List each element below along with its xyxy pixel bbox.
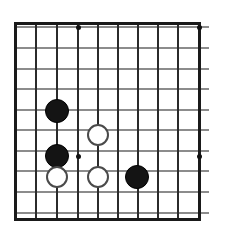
black-stone-3[interactable]	[125, 165, 149, 189]
black-stone-2[interactable]	[45, 144, 69, 168]
grid-line-vertical-2	[35, 22, 37, 218]
board-edge-top	[15, 22, 201, 25]
hoshi-c10-r7-icon	[197, 154, 202, 159]
hoshi-c4-r1-icon	[76, 25, 81, 30]
hoshi-c10-r1-icon	[197, 25, 202, 30]
board-edge-bottom	[15, 218, 201, 221]
white-stone-2[interactable]	[46, 166, 68, 188]
grid-line-vertical-5	[97, 22, 99, 218]
black-stone-1[interactable]	[45, 99, 69, 123]
go-diagram-root	[0, 0, 226, 233]
grid-line-horizontal-9	[15, 191, 209, 193]
grid-line-horizontal-3	[15, 68, 209, 70]
grid-line-vertical-6	[117, 22, 119, 218]
board-edge-right	[198, 22, 201, 221]
white-stone-1[interactable]	[87, 124, 109, 146]
white-stone-3[interactable]	[87, 166, 109, 188]
grid-line-horizontal-6	[15, 129, 209, 131]
grid-line-horizontal-10	[15, 212, 209, 214]
hoshi-c4-r7-icon	[76, 154, 81, 159]
grid-line-horizontal-1	[15, 26, 209, 28]
grid-line-vertical-4	[77, 22, 79, 218]
grid-line-horizontal-2	[15, 47, 209, 49]
grid-line-horizontal-8	[15, 170, 209, 172]
board-edge-left	[14, 22, 17, 221]
grid-line-vertical-9	[177, 22, 179, 218]
grid-line-horizontal-7	[15, 150, 209, 152]
go-board[interactable]	[0, 0, 226, 233]
grid-line-vertical-8	[157, 22, 159, 218]
grid-line-horizontal-4	[15, 88, 209, 90]
